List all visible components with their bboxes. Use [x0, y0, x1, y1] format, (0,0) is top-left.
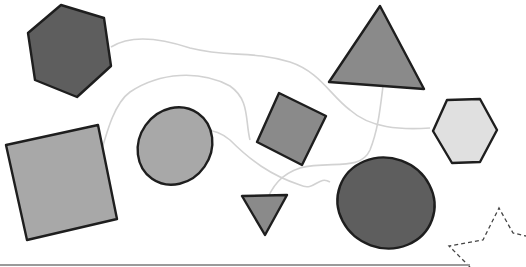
hexagon-light-shape [433, 99, 497, 163]
triangle-large-shape [329, 6, 424, 89]
shapes-canvas [0, 0, 526, 267]
shape-group [6, 5, 526, 267]
triangle-small-shape [242, 195, 287, 235]
diamond-square-shape [257, 93, 326, 165]
hexagon-dark-shape [28, 5, 111, 97]
star-dashed-shape [449, 208, 526, 267]
ellipse-medium-shape [123, 93, 228, 200]
square-large-shape [6, 125, 117, 240]
ellipse-dark-shape [325, 144, 448, 262]
